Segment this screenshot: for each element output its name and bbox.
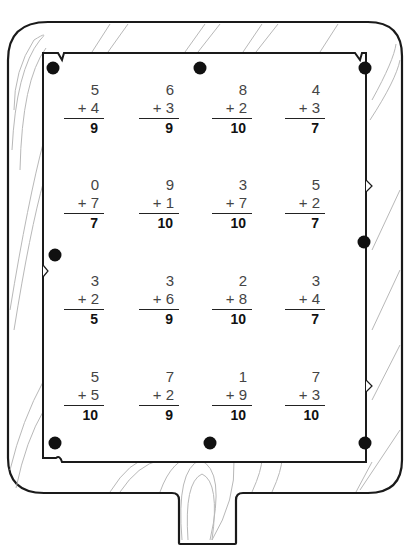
addend-bottom: + 7	[64, 194, 104, 212]
tack-icon	[49, 437, 62, 450]
addend-top: 5	[285, 175, 325, 194]
problem-14: 7 + 2 9	[139, 367, 179, 424]
addend-bottom: + 9	[212, 386, 252, 404]
addend-bottom: + 2	[285, 194, 325, 212]
sum-line	[212, 213, 252, 214]
problem-4: 4 + 3 7	[285, 80, 325, 137]
addend-bottom: + 5	[64, 386, 104, 404]
sum-line	[212, 118, 252, 119]
sum-answer: 9	[139, 120, 179, 137]
sum-answer: 10	[285, 407, 325, 424]
sum-line	[212, 309, 252, 310]
sum-line	[285, 405, 325, 406]
problem-7: 3 + 7 10	[212, 175, 252, 232]
problem-15: 1 + 9 10	[212, 367, 252, 424]
addend-bottom: + 3	[285, 386, 325, 404]
addend-bottom: + 8	[212, 290, 252, 308]
sum-line	[285, 118, 325, 119]
problem-5: 0 + 7 7	[64, 175, 104, 232]
sum-answer: 10	[64, 407, 104, 424]
sum-answer: 5	[64, 311, 104, 328]
sum-answer: 7	[285, 311, 325, 328]
addend-bottom: + 3	[139, 99, 179, 117]
addend-top: 2	[212, 271, 252, 290]
tack-icon	[358, 236, 371, 249]
sum-line	[285, 309, 325, 310]
addend-bottom: + 2	[139, 386, 179, 404]
addend-top: 5	[64, 80, 104, 99]
addend-bottom: + 3	[285, 99, 325, 117]
tack-icon	[359, 62, 372, 75]
addend-top: 3	[139, 271, 179, 290]
addend-top: 0	[64, 175, 104, 194]
problem-10: 3 + 6 9	[139, 271, 179, 328]
addend-top: 7	[139, 367, 179, 386]
problem-2: 6 + 3 9	[139, 80, 179, 137]
addend-bottom: + 2	[212, 99, 252, 117]
problem-12: 3 + 4 7	[285, 271, 325, 328]
addend-top: 9	[139, 175, 179, 194]
addend-bottom: + 7	[212, 194, 252, 212]
sum-line	[64, 309, 104, 310]
tack-icon	[49, 249, 62, 262]
tack-icon	[47, 62, 60, 75]
sum-line	[64, 213, 104, 214]
sum-answer: 7	[285, 215, 325, 232]
sum-line	[212, 405, 252, 406]
sum-answer: 7	[285, 120, 325, 137]
addend-bottom: + 4	[64, 99, 104, 117]
sum-answer: 10	[212, 407, 252, 424]
sum-line	[64, 118, 104, 119]
addend-top: 3	[285, 271, 325, 290]
addend-bottom: + 2	[64, 290, 104, 308]
addend-top: 1	[212, 367, 252, 386]
problem-13: 5 + 5 10	[64, 367, 104, 424]
addend-top: 6	[139, 80, 179, 99]
addend-bottom: + 4	[285, 290, 325, 308]
addend-top: 8	[212, 80, 252, 99]
problem-16: 7 + 3 10	[285, 367, 325, 424]
clipboard-frame	[0, 0, 416, 547]
sum-line	[139, 405, 179, 406]
tack-icon	[359, 437, 372, 450]
sum-answer: 9	[64, 120, 104, 137]
problem-1: 5 + 4 9	[64, 80, 104, 137]
sum-answer: 10	[212, 311, 252, 328]
addend-top: 5	[64, 367, 104, 386]
sum-answer: 10	[212, 215, 252, 232]
addend-top: 4	[285, 80, 325, 99]
sum-answer: 9	[139, 407, 179, 424]
tack-icon	[194, 62, 207, 75]
addend-top: 3	[64, 271, 104, 290]
sum-answer: 7	[64, 215, 104, 232]
sum-answer: 10	[139, 215, 179, 232]
sum-line	[139, 309, 179, 310]
sum-line	[285, 213, 325, 214]
sum-answer: 10	[212, 120, 252, 137]
sum-line	[139, 213, 179, 214]
addend-bottom: + 1	[139, 194, 179, 212]
problem-8: 5 + 2 7	[285, 175, 325, 232]
sum-line	[64, 405, 104, 406]
sum-line	[139, 118, 179, 119]
addend-bottom: + 6	[139, 290, 179, 308]
problem-9: 3 + 2 5	[64, 271, 104, 328]
problem-11: 2 + 8 10	[212, 271, 252, 328]
addend-top: 7	[285, 367, 325, 386]
problem-6: 9 + 1 10	[139, 175, 179, 232]
addend-top: 3	[212, 175, 252, 194]
sum-answer: 9	[139, 311, 179, 328]
problem-3: 8 + 2 10	[212, 80, 252, 137]
tack-icon	[204, 437, 217, 450]
